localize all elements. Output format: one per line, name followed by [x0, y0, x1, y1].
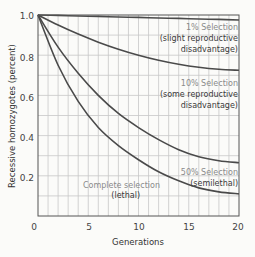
x-tick-label: 15 — [183, 222, 194, 232]
annotation-note: (lethal) — [111, 191, 140, 200]
annotation-note: (some reproductive — [160, 90, 238, 99]
y-tick-label: 0.4 — [20, 133, 35, 143]
annotation-title: 50% Selection — [181, 168, 238, 177]
annotation-title: 10% Selection — [181, 79, 238, 88]
y-tick-label: 0.8 — [20, 53, 35, 63]
annotation-note: (semilethal) — [190, 179, 238, 188]
x-axis-label: Generations — [112, 237, 164, 247]
x-tick-labels: 0 5 10 15 20 — [31, 222, 244, 232]
y-tick-label: 0.6 — [20, 93, 35, 103]
x-tick-label: 5 — [86, 222, 92, 232]
x-tick-label: 10 — [133, 222, 145, 232]
annotation-title: 1% Selection — [186, 23, 238, 32]
annotation-title: Complete selection — [83, 181, 160, 190]
annotation-note: (slight reproductive — [160, 34, 238, 43]
y-tick-label: 1.0 — [20, 11, 35, 21]
selection-chart: 0.2 0.4 0.6 0.8 1.0 0 5 10 15 20 Generat… — [0, 0, 255, 257]
x-tick-label: 20 — [232, 222, 244, 232]
y-tick-label: 0.2 — [20, 173, 34, 183]
y-axis-label: Recessive homozygotes (percent) — [7, 44, 17, 188]
x-tick-label: 0 — [31, 222, 37, 232]
annotation-50pct: 50% Selection (semilethal) — [181, 168, 238, 188]
annotation-note: disadvantage) — [181, 45, 238, 54]
annotation-note: disadvantage) — [181, 101, 238, 110]
annotation-10pct: 10% Selection (some reproductive disadva… — [160, 79, 238, 110]
annotation-1pct: 1% Selection (slight reproductive disadv… — [160, 23, 238, 54]
y-tick-labels: 0.2 0.4 0.6 0.8 1.0 — [20, 11, 35, 183]
